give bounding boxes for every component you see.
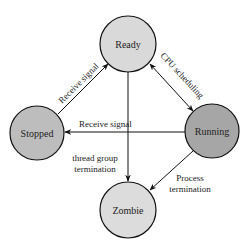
node-zombie: Zombie: [100, 182, 156, 238]
edge-label-process-line2: termination: [169, 184, 211, 194]
edge-label-cpu-scheduling: CPU scheduling: [159, 51, 207, 101]
edge-label-process-line1: Process: [176, 173, 204, 183]
node-label-ready: Ready: [115, 39, 141, 50]
edge-label-thread-group-line2: termination: [74, 164, 116, 174]
node-stopped: Stopped: [10, 106, 64, 160]
edge-label-receive-signal-up: Receive signal: [56, 61, 101, 106]
edge-label-thread-group-line1: thread group: [72, 153, 118, 163]
node-ready: Ready: [100, 16, 156, 72]
node-label-zombie: Zombie: [112, 205, 144, 216]
edge-label-receive-signal-left: Receive signal: [79, 119, 132, 129]
node-label-running: Running: [195, 126, 229, 137]
node-label-stopped: Stopped: [21, 128, 54, 139]
node-running: Running: [185, 104, 239, 158]
state-diagram: Receive signal CPU scheduling Receive si…: [0, 0, 252, 251]
